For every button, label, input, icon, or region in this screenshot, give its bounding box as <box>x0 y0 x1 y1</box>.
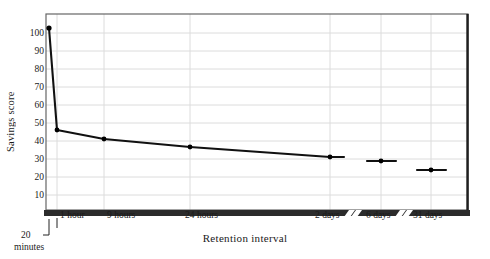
x-tick-label-1-hour: 1 hour <box>60 210 85 221</box>
x-tick-label-31-days: 31 days <box>413 210 442 221</box>
plot-background <box>46 14 468 210</box>
x-tick-label-24-hours: 24 hours <box>185 210 218 221</box>
forgetting-curve-figure: Savings score 100 90 80 70 60 50 40 30 2… <box>0 0 490 259</box>
data-point-6-days <box>379 159 384 164</box>
data-point-20-minutes <box>46 25 51 30</box>
x-tick-label-6-days: 6 days <box>366 210 391 221</box>
data-point-2-days <box>328 155 333 160</box>
data-point-31-days <box>429 168 434 173</box>
data-point-9-hours <box>102 137 107 142</box>
x-tick-label-2-days: 2 days <box>315 210 340 221</box>
data-point-24-hours <box>188 145 193 150</box>
x-tick-label-9-hours: 9 hours <box>107 210 135 221</box>
data-point-1-hour <box>55 128 60 133</box>
x-axis-title: Retention interval <box>0 232 490 244</box>
